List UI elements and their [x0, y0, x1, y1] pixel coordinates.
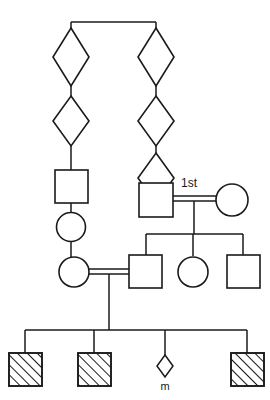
symbol-diamond-I-1 [53, 28, 89, 86]
symbol-circle-V-3 [178, 257, 208, 287]
pedigree-canvas: 1st [0, 0, 270, 400]
symbol-diamond-miscarriage-VI-3 [157, 355, 173, 377]
pedigree-chart: 1st [0, 0, 270, 400]
symbol-square-V-2 [129, 255, 162, 288]
symbol-square-affected-VI-2 [78, 353, 111, 386]
symbol-square-III-1 [55, 170, 88, 203]
mating-line-consanguineous-V [89, 269, 129, 274]
symbol-circle-IV-1 [57, 213, 86, 242]
gen1-sibship-connector [71, 22, 156, 28]
consanguinity-label-1st: 1st [181, 176, 198, 190]
miscarriage-label-m: m [160, 380, 169, 392]
symbol-square-affected-VI-4 [231, 353, 264, 386]
symbol-diamond-II-1 [53, 96, 89, 146]
symbol-square-affected-VI-1 [9, 353, 42, 386]
symbol-square-V-4 [227, 255, 260, 288]
symbol-diamond-II-2 [138, 96, 174, 146]
symbol-diamond-I-2 [138, 28, 174, 86]
symbol-circle-V-1 [59, 257, 89, 287]
mating-line-consanguineous-IV [173, 196, 216, 201]
symbol-circle-IV-3 [216, 184, 248, 216]
symbol-square-IV-2 [139, 183, 173, 217]
